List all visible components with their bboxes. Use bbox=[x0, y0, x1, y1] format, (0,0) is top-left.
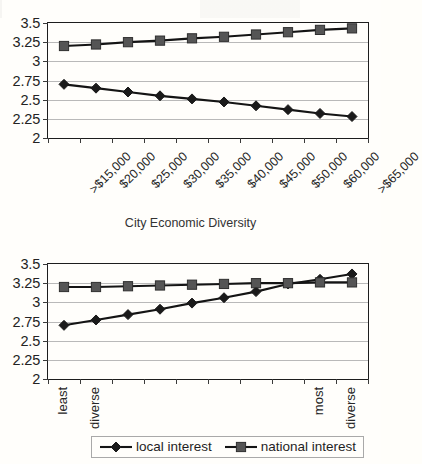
legend-label: local interest bbox=[136, 439, 212, 454]
x-axis-tick bbox=[304, 379, 305, 384]
data-point-diamond bbox=[283, 105, 293, 115]
x-axis-tick bbox=[80, 138, 81, 143]
x-axis-tick bbox=[272, 379, 273, 384]
data-point-diamond bbox=[111, 442, 121, 452]
x-axis-label: least bbox=[56, 387, 69, 414]
data-point-square bbox=[283, 28, 292, 37]
data-point-diamond bbox=[315, 108, 325, 118]
data-point-diamond bbox=[59, 79, 69, 89]
x-axis-tick bbox=[112, 138, 113, 143]
x-axis-tick bbox=[272, 138, 273, 143]
x-axis-tick bbox=[208, 379, 209, 384]
data-point-square bbox=[283, 279, 292, 288]
y-axis-label: 3.5 bbox=[20, 257, 40, 272]
x-axis-tick bbox=[208, 138, 209, 143]
series-line bbox=[64, 84, 352, 116]
data-point-diamond bbox=[251, 101, 261, 111]
data-point-square bbox=[236, 442, 245, 451]
data-point-square bbox=[91, 40, 100, 49]
data-point-diamond bbox=[91, 315, 101, 325]
data-point-diamond bbox=[59, 320, 69, 330]
data-point-square bbox=[219, 32, 228, 41]
data-point-square bbox=[219, 279, 228, 288]
x-axis-tick bbox=[368, 138, 369, 143]
x-axis-tick bbox=[336, 138, 337, 143]
y-axis-label: 3 bbox=[32, 295, 40, 310]
figure-caption: City Economic Diversity bbox=[0, 216, 381, 230]
data-point-square bbox=[315, 25, 324, 34]
legend-entry: national interest bbox=[224, 439, 356, 454]
data-point-diamond bbox=[155, 304, 165, 314]
data-point-square bbox=[59, 282, 68, 291]
data-point-square bbox=[187, 34, 196, 43]
data-point-square bbox=[347, 24, 356, 33]
y-axis-label: 2.75 bbox=[13, 73, 40, 88]
data-point-diamond bbox=[123, 87, 133, 97]
plot-area-diversity: 22.252.52.7533.253.5 bbox=[47, 263, 369, 380]
legend-diamond-icon bbox=[99, 440, 133, 454]
legend-label: national interest bbox=[261, 439, 356, 454]
y-axis-label: 2 bbox=[32, 131, 40, 146]
data-point-diamond bbox=[219, 293, 229, 303]
y-axis-label: 2.75 bbox=[13, 314, 40, 329]
legend-entry: local interest bbox=[99, 439, 212, 454]
x-axis-labels-income: >$15,000$20,000$25,000$30,000$35,000$40,… bbox=[47, 146, 369, 204]
data-point-diamond bbox=[187, 94, 197, 104]
y-axis-label: 2.25 bbox=[13, 353, 40, 368]
series-line bbox=[64, 28, 352, 46]
x-axis-tick bbox=[144, 379, 145, 384]
x-axis-label: diverse bbox=[344, 387, 357, 429]
chart-income: 22.252.52.7533.253.5 >$15,000$20,000$25,… bbox=[0, 16, 381, 206]
y-axis-label: 2 bbox=[32, 372, 40, 387]
data-point-square bbox=[123, 282, 132, 291]
data-point-diamond bbox=[123, 310, 133, 320]
data-point-square bbox=[251, 30, 260, 39]
data-point-square bbox=[251, 279, 260, 288]
x-axis-tick bbox=[48, 379, 49, 384]
legend: local interestnational interest bbox=[91, 436, 364, 458]
data-point-diamond bbox=[347, 112, 357, 122]
chart-diversity: 22.252.52.7533.253.5 leastdiversemostdiv… bbox=[0, 255, 381, 430]
y-axis-label: 2.5 bbox=[20, 92, 40, 107]
y-axis-label: 3.25 bbox=[13, 35, 40, 50]
data-point-diamond bbox=[219, 97, 229, 107]
x-axis-label: most bbox=[312, 387, 325, 415]
x-axis-tick bbox=[48, 138, 49, 143]
x-axis-tick bbox=[144, 138, 145, 143]
x-axis-tick bbox=[80, 379, 81, 384]
x-axis-tick bbox=[240, 379, 241, 384]
series-layer bbox=[48, 264, 368, 379]
data-point-square bbox=[155, 36, 164, 45]
data-point-square bbox=[59, 41, 68, 50]
y-axis-label: 3.25 bbox=[13, 276, 40, 291]
data-point-square bbox=[91, 282, 100, 291]
series-layer bbox=[48, 23, 368, 138]
x-axis-tick bbox=[368, 379, 369, 384]
data-point-square bbox=[315, 278, 324, 287]
y-axis-label: 3.5 bbox=[20, 16, 40, 31]
data-point-square bbox=[187, 280, 196, 289]
data-point-diamond bbox=[187, 298, 197, 308]
x-axis-tick bbox=[176, 138, 177, 143]
data-point-square bbox=[123, 38, 132, 47]
x-axis-tick bbox=[336, 379, 337, 384]
y-axis-label: 2.25 bbox=[13, 112, 40, 127]
y-axis-label: 3 bbox=[32, 54, 40, 69]
x-axis-label: diverse bbox=[88, 387, 101, 429]
x-axis-tick bbox=[304, 138, 305, 143]
plot-area-income: 22.252.52.7533.253.5 bbox=[47, 22, 369, 139]
data-point-diamond bbox=[155, 91, 165, 101]
x-axis-tick bbox=[112, 379, 113, 384]
legend-square-icon bbox=[224, 440, 258, 454]
data-point-square bbox=[155, 281, 164, 290]
y-axis-label: 2.5 bbox=[20, 333, 40, 348]
data-point-diamond bbox=[91, 83, 101, 93]
x-axis-tick bbox=[176, 379, 177, 384]
series-line bbox=[64, 282, 352, 287]
x-axis-label: >$65,000 bbox=[375, 150, 421, 196]
x-axis-tick bbox=[240, 138, 241, 143]
data-point-square bbox=[347, 278, 356, 287]
